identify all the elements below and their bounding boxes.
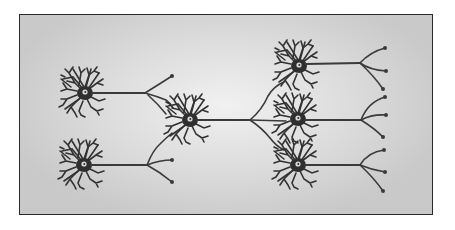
axon-terminal <box>383 46 387 50</box>
axon-terminal <box>381 189 385 193</box>
neuron-output-top <box>273 40 388 91</box>
axon-terminal <box>383 170 387 174</box>
axon-terminal <box>170 158 174 162</box>
neuron-input-bottom <box>58 133 174 189</box>
neural-network-diagram <box>0 0 455 230</box>
axon-terminal <box>384 69 388 73</box>
neuron-output-bottom <box>272 139 387 193</box>
axon-terminal <box>381 135 385 139</box>
axon-terminal <box>170 180 174 184</box>
axon-terminal <box>381 87 385 91</box>
axon-terminal <box>384 113 388 117</box>
neuron-central <box>164 82 286 150</box>
axon-terminal <box>382 148 386 152</box>
axon-terminal <box>383 95 387 99</box>
axon-terminal <box>170 74 174 78</box>
neuron-input-top <box>59 67 174 117</box>
neuron-output-middle <box>272 93 388 143</box>
